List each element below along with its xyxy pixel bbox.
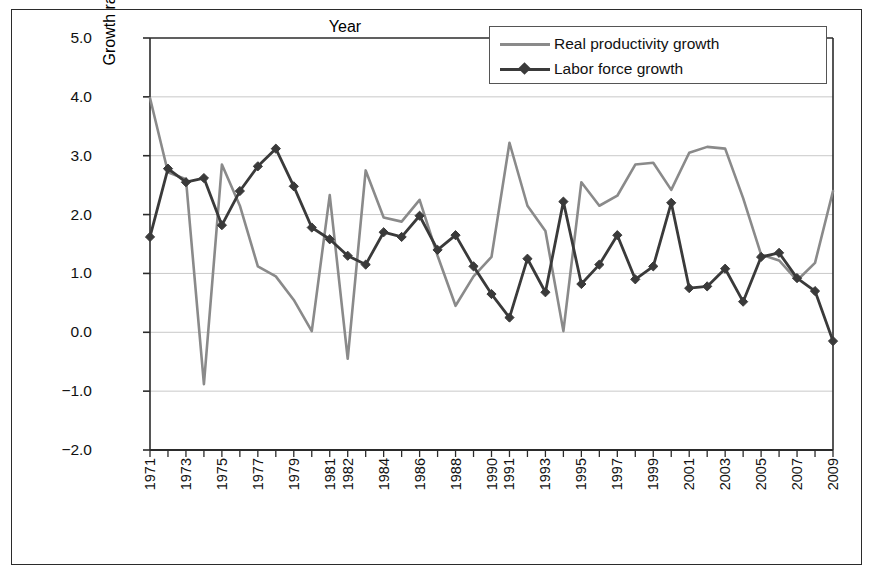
data-point-marker	[199, 173, 208, 182]
chart-legend: Real productivity growth Labor force gro…	[489, 26, 827, 84]
data-point-marker	[145, 232, 154, 241]
legend-swatch-line-diamond-icon	[496, 60, 554, 78]
data-point-marker	[685, 284, 694, 293]
series-line-real-productivity-growth	[150, 98, 833, 384]
data-point-marker	[757, 252, 766, 261]
data-point-marker	[828, 337, 837, 346]
plot-area	[0, 0, 875, 581]
data-point-marker	[289, 182, 298, 191]
line-chart-figure: Growth rate (%) Year 5.04.03.02.01.00.0−…	[0, 0, 875, 581]
legend-label: Real productivity growth	[554, 35, 719, 53]
legend-item-real-productivity-growth: Real productivity growth	[496, 31, 826, 56]
legend-swatch-line-icon	[496, 35, 554, 53]
legend-item-labor-force-growth: Labor force growth	[496, 56, 826, 81]
legend-label: Labor force growth	[554, 60, 683, 78]
data-point-marker	[559, 197, 568, 206]
data-point-marker	[667, 198, 676, 207]
